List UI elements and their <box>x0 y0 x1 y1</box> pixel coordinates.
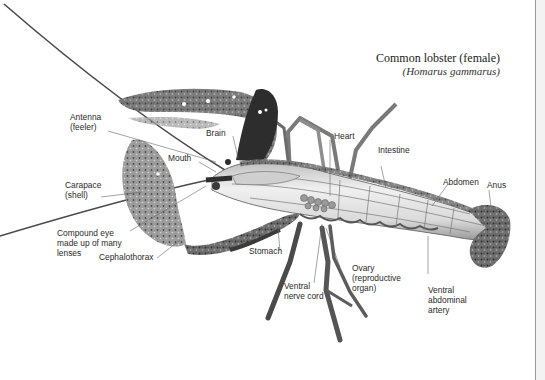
label-brain: Brain <box>206 128 226 138</box>
antenna-left <box>4 4 228 172</box>
title-scientific-name: (Homarus gammarus) <box>376 65 500 78</box>
label-carapace-line1: Carapace <box>65 180 101 190</box>
label-cephalothorax-text: Cephalothorax <box>99 252 153 262</box>
label-cephalothorax: Cephalothorax <box>99 252 153 262</box>
label-mouth: Mouth <box>168 153 191 163</box>
label-ventral-abdominal-artery: Ventral abdominal artery <box>428 285 467 315</box>
label-compound-eye-line2: made up of many <box>57 238 122 248</box>
label-heart: Heart <box>334 131 354 141</box>
label-vaa-line3: artery <box>428 305 467 315</box>
label-ovary-line3: organ) <box>352 283 401 293</box>
label-mouth-text: Mouth <box>168 153 191 163</box>
claw-arm <box>184 214 300 255</box>
label-antenna: Antenna (feeler) <box>70 112 101 132</box>
label-stomach-text: Stomach <box>249 246 282 256</box>
label-ventral-nerve-cord-line2: nerve cord <box>284 291 324 301</box>
label-ventral-nerve-cord: Ventral nerve cord <box>284 281 324 301</box>
label-vaa-line2: abdominal <box>428 295 467 305</box>
label-abdomen: Abdomen <box>443 177 479 187</box>
label-antenna-line1: Antenna <box>70 112 101 122</box>
label-ovary: Ovary (reproductive organ) <box>352 263 401 293</box>
diagram-canvas: Common lobster (female) (Homarus gammaru… <box>0 0 535 380</box>
label-intestine-text: Intestine <box>378 145 410 155</box>
label-anus: Anus <box>487 180 506 190</box>
label-heart-text: Heart <box>334 131 354 141</box>
label-anus-text: Anus <box>487 180 506 190</box>
diagram-title: Common lobster (female) (Homarus gammaru… <box>376 51 500 78</box>
label-ovary-line2: (reproductive <box>352 273 401 283</box>
label-carapace-line2: (shell) <box>65 190 101 200</box>
label-ventral-nerve-cord-line1: Ventral <box>284 281 324 291</box>
side-panel-edge <box>535 0 545 380</box>
label-stomach: Stomach <box>249 246 282 256</box>
label-brain-text: Brain <box>206 128 226 138</box>
label-antenna-line2: (feeler) <box>70 122 101 132</box>
label-vaa-line1: Ventral <box>428 285 467 295</box>
label-abdomen-text: Abdomen <box>443 177 479 187</box>
label-compound-eye-line1: Compound eye <box>57 228 122 238</box>
label-carapace: Carapace (shell) <box>65 180 101 200</box>
label-intestine: Intestine <box>378 145 410 155</box>
title-common-name: Common lobster (female) <box>376 51 500 65</box>
label-ovary-line1: Ovary <box>352 263 401 273</box>
